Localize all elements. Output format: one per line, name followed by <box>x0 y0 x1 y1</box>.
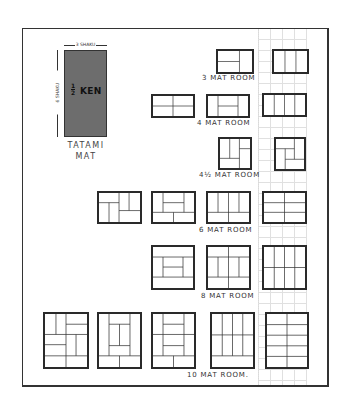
width-label: 3 SHAKU <box>75 42 97 47</box>
label-8-mat-room: 8 MAT ROOM <box>201 292 254 300</box>
room-3mat-b <box>272 49 309 74</box>
room-6mat-a <box>97 191 142 224</box>
room-6mat-c <box>206 191 251 224</box>
room-10mat-a <box>43 312 89 369</box>
room-4-5mat-a <box>218 137 252 170</box>
height-label: 6 SHAKU <box>55 71 60 115</box>
room-3mat-a <box>216 49 254 74</box>
room-4-5mat-b <box>274 137 306 171</box>
room-10mat-e <box>265 312 309 369</box>
room-4mat-b <box>206 94 250 118</box>
width-dimension: 3 SHAKU <box>64 41 107 49</box>
room-8mat-c <box>262 245 307 290</box>
label-4-mat-room: 4 MAT ROOM <box>197 119 250 127</box>
caption-line-2: MAT <box>48 151 124 162</box>
room-10mat-c <box>151 312 196 369</box>
label-3-mat-room: 3 MAT ROOM <box>202 74 255 82</box>
tatami-mat-caption: TATAMI MAT <box>48 140 124 162</box>
room-8mat-a <box>151 245 195 290</box>
room-4mat-c <box>262 93 307 117</box>
ken-fraction: 12 <box>71 83 75 96</box>
label-10-mat-room: 10 MAT ROOM. <box>187 371 249 379</box>
room-10mat-d <box>210 312 255 369</box>
room-10mat-b <box>97 312 142 369</box>
room-6mat-b <box>151 191 196 224</box>
fraction-denominator: 2 <box>71 90 75 96</box>
room-6mat-d <box>262 191 307 224</box>
height-dimension: 6 SHAKU <box>53 50 61 137</box>
label-4-5-mat-room: 4½ MAT ROOM <box>199 171 260 179</box>
ken-label: KEN <box>80 86 102 96</box>
label-6-mat-room: 6 MAT ROOM <box>199 226 252 234</box>
room-4mat-a <box>151 94 195 118</box>
caption-line-1: TATAMI <box>48 140 124 151</box>
room-8mat-b <box>206 245 251 290</box>
